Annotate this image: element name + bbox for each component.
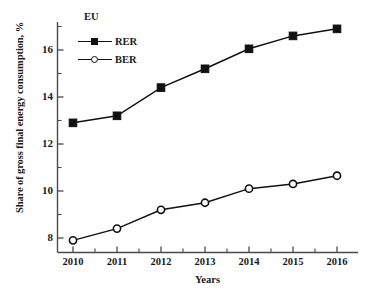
data-point-rer-2015 xyxy=(289,32,297,40)
plot-canvas xyxy=(0,0,369,296)
data-point-ber-2011 xyxy=(113,225,120,232)
data-point-rer-2010 xyxy=(69,119,77,127)
data-point-ber-2013 xyxy=(201,199,208,206)
data-point-ber-2014 xyxy=(245,185,252,192)
data-point-ber-2015 xyxy=(289,180,296,187)
data-point-ber-2016 xyxy=(333,172,340,179)
data-point-rer-2016 xyxy=(333,25,341,33)
axis-lines xyxy=(58,22,359,253)
series-line-ber xyxy=(73,176,337,241)
x-major-ticks xyxy=(73,247,337,253)
data-point-ber-2010 xyxy=(69,237,76,244)
data-point-rer-2014 xyxy=(245,45,253,53)
data-point-ber-2012 xyxy=(157,206,164,213)
y-major-ticks xyxy=(58,50,64,238)
data-point-rer-2013 xyxy=(201,65,209,73)
series-markers xyxy=(69,25,341,244)
series-line-rer xyxy=(73,29,337,123)
data-point-rer-2012 xyxy=(157,84,165,92)
data-point-rer-2011 xyxy=(113,112,121,120)
series-lines xyxy=(73,29,337,241)
chart-figure: Share of gross final energy consumption,… xyxy=(0,0,369,296)
